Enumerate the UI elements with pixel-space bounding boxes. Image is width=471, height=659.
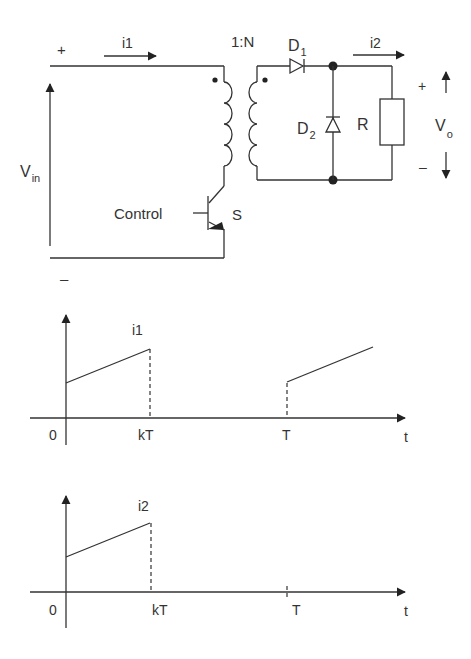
diode-d1-icon [290, 59, 303, 73]
i1-label: i1 [122, 35, 133, 51]
i1-tick-0: 0 [49, 427, 57, 443]
turns-ratio-label: 1:N [231, 33, 254, 50]
primary-dot [212, 77, 217, 82]
diode-d2-icon [326, 118, 340, 132]
i2-wave-label: i2 [138, 498, 149, 514]
vo-plus-label: + [418, 78, 426, 94]
vin-minus-label: – [60, 270, 69, 287]
i1-ramp-1 [66, 349, 150, 383]
forward-converter-figure: + – i1 1:N D1 D2 R i2 Vin Vo + – Control… [0, 0, 471, 659]
primary-winding [224, 82, 232, 166]
circuit-diagram: + – i1 1:N D1 D2 R i2 Vin Vo + – Control… [20, 33, 453, 287]
secondary-dot [262, 77, 267, 82]
r-label: R [357, 116, 369, 133]
i2-tick-kt: kT [152, 602, 168, 618]
secondary-winding [249, 82, 257, 166]
waveform-i2: i2 0 kT T t [30, 496, 408, 628]
i1-wave-label: i1 [132, 322, 143, 338]
i2-tick-0: 0 [49, 602, 57, 618]
i2-label: i2 [370, 35, 381, 51]
vo-label: Vo [435, 117, 453, 140]
i1-tick-t: T [282, 427, 291, 443]
vo-minus-label: – [419, 159, 427, 175]
switch-s-label: S [232, 206, 242, 223]
vin-label: Vin [20, 163, 40, 184]
i1-x-label: t [404, 429, 408, 445]
d1-label: D1 [288, 37, 307, 58]
i2-x-label: t [404, 603, 408, 619]
vin-plus-label: + [57, 41, 66, 58]
waveform-i1: i1 0 kT T t [30, 315, 408, 445]
transistor-collector [209, 186, 224, 203]
d2-label: D2 [297, 120, 316, 141]
i2-ramp [66, 523, 150, 557]
control-label: Control [114, 205, 162, 222]
i1-ramp-2 [287, 347, 373, 382]
i1-tick-kt: kT [138, 427, 154, 443]
i2-tick-t: T [292, 602, 301, 618]
resistor-r-icon [380, 99, 404, 145]
